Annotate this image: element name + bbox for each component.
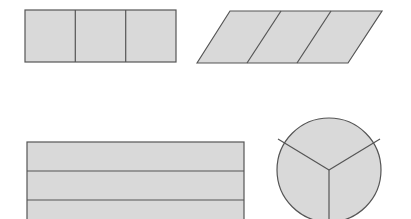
circle-thirds: [277, 118, 381, 219]
parallelogram-thirds: [197, 11, 382, 63]
diagram-canvas: [0, 0, 411, 219]
rectangle-thirds-horizontal: [27, 142, 244, 219]
rectangle-thirds-vertical: [25, 10, 176, 62]
